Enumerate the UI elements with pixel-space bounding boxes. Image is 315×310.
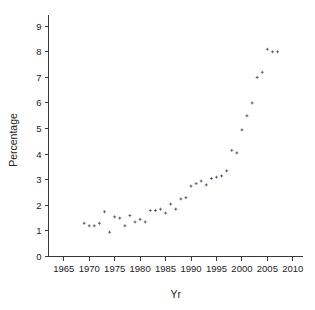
x-tick-label: 2005 [257,263,278,274]
data-point [144,220,147,223]
data-point-series [83,48,279,234]
data-point [108,231,111,234]
data-point [174,208,177,211]
y-tick-label: 6 [36,97,41,108]
data-point [230,149,233,152]
data-point [276,50,279,53]
data-point [200,180,203,183]
chart-svg: 0123456789 19651970197519801985199019952… [0,0,315,310]
x-tick-label: 1980 [130,263,151,274]
data-point [88,224,91,227]
data-point [215,176,218,179]
data-point [103,210,106,213]
data-point [134,220,137,223]
y-tick-label: 5 [36,123,41,134]
x-tick-label: 2010 [282,263,303,274]
x-tick-label: 1995 [206,263,227,274]
x-tick-label: 1985 [155,263,176,274]
y-tick-labels: 0123456789 [36,21,41,262]
x-axis-ticks [64,257,293,261]
data-point [195,182,198,185]
x-tick-label: 2000 [231,263,252,274]
x-tick-label: 1970 [79,263,100,274]
y-tick-label: 0 [36,251,41,262]
y-tick-label: 7 [36,72,41,83]
scatter-chart: 0123456789 19651970197519801985199019952… [0,0,315,310]
data-point [235,151,238,154]
data-point [93,224,96,227]
data-point [128,214,131,217]
data-point [225,169,228,172]
x-tick-labels: 1965197019751980198519901995200020052010 [53,263,303,274]
data-point [154,209,157,212]
data-point [164,212,167,215]
data-point [205,183,208,186]
y-tick-label: 1 [36,225,41,236]
data-point [251,101,254,104]
x-tick-label: 1990 [180,263,201,274]
y-tick-label: 3 [36,174,41,185]
data-point [240,128,243,131]
data-point [83,222,86,225]
data-point [261,71,264,74]
y-axis-title: Percentage [7,113,19,167]
data-point [123,224,126,227]
data-point [149,209,152,212]
y-tick-label: 2 [36,200,41,211]
data-point [184,196,187,199]
data-point [118,217,121,220]
data-point [139,218,142,221]
x-tick-label: 1975 [104,263,125,274]
x-axis-title: Yr [171,288,182,300]
x-tick-label: 1965 [53,263,74,274]
plot-area: 0123456789 19651970197519801985199019952… [0,0,315,310]
data-point [190,185,193,188]
data-point [98,222,101,225]
data-point [220,174,223,177]
data-point [210,177,213,180]
y-tick-label: 8 [36,46,41,57]
y-axis-ticks [45,26,49,256]
data-point [246,114,249,117]
data-point [169,203,172,206]
data-point [266,48,269,51]
data-point [113,215,116,218]
data-point [179,197,182,200]
data-point [256,76,259,79]
data-point [271,50,274,53]
data-point [159,208,162,211]
y-tick-label: 4 [36,149,41,160]
y-tick-label: 9 [36,21,41,32]
